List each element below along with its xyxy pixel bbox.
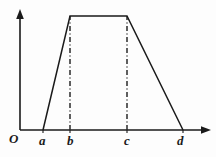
origin-label: O [9, 132, 18, 145]
tick-label-d: d [177, 134, 184, 147]
figure-container: O a b c d [0, 0, 216, 157]
tick-label-c: c [124, 134, 130, 147]
y-axis-arrow-icon [16, 9, 24, 19]
x-axis-arrow-icon [201, 126, 211, 133]
trapezoid-curve [43, 16, 183, 130]
tick-label-a: a [39, 134, 46, 147]
tick-label-b: b [67, 134, 74, 147]
